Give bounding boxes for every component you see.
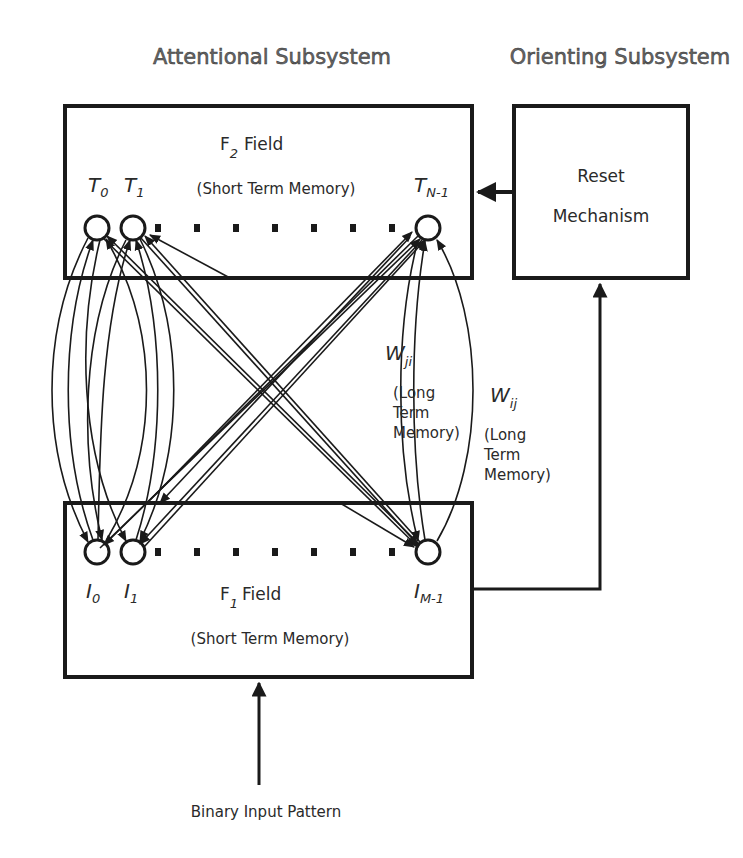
svg-text:Memory): Memory)	[393, 424, 460, 442]
wij-label: Wij (Long Term Memory)	[483, 383, 551, 484]
f1-node-im-1: IM-1	[414, 540, 444, 606]
svg-text:Wij: Wij	[490, 383, 517, 411]
f2-short-term-memory-label: (Short Term Memory)	[197, 180, 356, 198]
mechanism-label: Mechanism	[553, 206, 650, 226]
binary-input-label: Binary Input Pattern	[191, 803, 342, 821]
svg-text:I0: I0	[86, 579, 100, 606]
orienting-subsystem-header: Orienting Subsystem	[510, 45, 731, 69]
svg-text:T1: T1	[124, 173, 145, 200]
reset-mechanism-box	[514, 106, 688, 278]
f1-short-term-memory-label: (Short Term Memory)	[191, 630, 350, 648]
svg-text:TN-1: TN-1	[414, 173, 449, 200]
svg-text:I1: I1	[124, 579, 138, 606]
svg-text:Memory): Memory)	[484, 466, 551, 484]
svg-text:Term: Term	[483, 446, 520, 464]
f1-field-title: F1Field	[220, 584, 281, 611]
svg-text:Wji: Wji	[385, 341, 412, 369]
svg-text:(Long: (Long	[484, 426, 526, 444]
art-network-diagram: Attentional Subsystem Orienting Subsyste…	[0, 0, 743, 858]
f2-node-t1: T1	[121, 173, 145, 240]
reset-label: Reset	[577, 166, 625, 186]
svg-text:Term: Term	[392, 404, 429, 422]
svg-text:(Long: (Long	[393, 384, 435, 402]
f2-node-tn-1: TN-1	[414, 173, 449, 240]
attentional-subsystem-header: Attentional Subsystem	[153, 45, 391, 69]
f1-node-i1: I1	[121, 540, 145, 606]
svg-text:T0: T0	[88, 173, 109, 200]
f1-ellipsis-dots	[155, 548, 395, 556]
wji-label: Wji (Long Term Memory)	[385, 341, 460, 442]
f1-node-i0: I0	[85, 540, 109, 606]
f2-node-t0: T0	[85, 173, 109, 240]
f2-ellipsis-dots	[155, 224, 395, 232]
svg-text:IM-1: IM-1	[414, 579, 444, 606]
f2-field-title: F2Field	[220, 134, 283, 161]
